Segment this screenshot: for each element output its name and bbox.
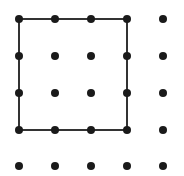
grid-dot	[123, 126, 131, 134]
grid-dot	[123, 52, 131, 60]
grid-dot	[159, 52, 167, 60]
grid-dot	[123, 15, 131, 23]
grid-dot	[51, 162, 59, 170]
grid-dot	[15, 52, 23, 60]
grid-dot	[51, 89, 59, 97]
grid-dot	[123, 162, 131, 170]
grid-dot	[159, 162, 167, 170]
grid-dot	[51, 126, 59, 134]
dot-grid	[15, 15, 167, 170]
grid-dot	[15, 162, 23, 170]
grid-dot	[159, 126, 167, 134]
grid-dot	[51, 52, 59, 60]
grid-dot	[87, 15, 95, 23]
grid-dot	[15, 15, 23, 23]
grid-dot	[123, 89, 131, 97]
grid-dot	[87, 89, 95, 97]
square-outline	[19, 19, 127, 130]
grid-dot	[15, 89, 23, 97]
grid-dot	[159, 15, 167, 23]
grid-dot	[15, 126, 23, 134]
grid-dot	[51, 15, 59, 23]
grid-dot	[159, 89, 167, 97]
grid-dot	[87, 126, 95, 134]
grid-dot	[87, 162, 95, 170]
diagram-canvas	[0, 0, 184, 176]
grid-dot	[87, 52, 95, 60]
